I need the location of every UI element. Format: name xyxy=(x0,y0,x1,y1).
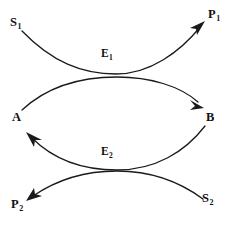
reaction-diagram: S1 P1 A B P2 S2 E1 E2 xyxy=(0,0,233,229)
enzyme-label-e2-base: E xyxy=(101,145,109,157)
node-label-b: B xyxy=(206,111,215,124)
node-label-s2-sub: 2 xyxy=(209,198,213,207)
node-label-s1: S1 xyxy=(10,16,21,29)
curve-b-to-a xyxy=(32,126,205,170)
node-label-s2: S2 xyxy=(202,192,213,205)
curve-s2-to-p2 xyxy=(33,171,203,199)
node-label-b-base: B xyxy=(206,110,215,124)
reaction-diagram-canvas xyxy=(0,0,233,229)
arrow-s1-to-p1 xyxy=(22,21,205,74)
node-label-a-base: A xyxy=(12,110,21,124)
enzyme-label-e2-sub: 2 xyxy=(109,151,113,160)
enzyme-label-e2: E2 xyxy=(101,146,112,158)
arrowhead-s1-to-p1 xyxy=(190,21,205,35)
arrow-s2-to-p2 xyxy=(26,171,203,201)
node-label-p2-base: P xyxy=(11,197,19,211)
arrowhead-s2-to-p2 xyxy=(26,188,42,201)
node-label-p1-sub: 1 xyxy=(216,14,220,23)
node-label-p2-sub: 2 xyxy=(19,204,23,213)
curve-a-to-b xyxy=(22,77,198,110)
node-label-p1-base: P xyxy=(208,7,216,21)
node-label-a: A xyxy=(12,111,21,124)
arrow-b-to-a xyxy=(26,126,205,170)
enzyme-label-e1-base: E xyxy=(101,47,109,59)
node-label-p2: P2 xyxy=(11,198,23,211)
enzyme-label-e1: E1 xyxy=(101,48,112,60)
arrow-a-to-b xyxy=(22,77,204,110)
node-label-s1-sub: 1 xyxy=(17,22,21,31)
enzyme-label-e1-sub: 1 xyxy=(109,53,113,62)
node-label-p1: P1 xyxy=(208,8,220,21)
